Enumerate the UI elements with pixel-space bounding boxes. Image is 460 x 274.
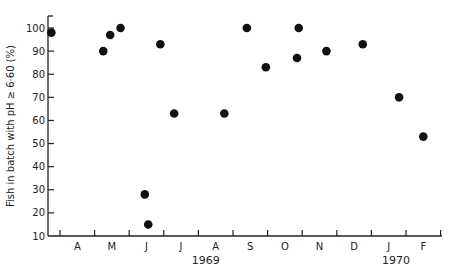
x-month-label: A xyxy=(212,241,219,252)
y-tick-label: 40 xyxy=(32,161,45,172)
y-tick-label: 10 xyxy=(32,231,45,242)
data-point xyxy=(293,54,302,63)
x-month-labels: AMJJASONDJF xyxy=(74,241,427,252)
data-point xyxy=(294,24,303,33)
y-tick-label: 30 xyxy=(32,184,45,195)
y-tick-label: 20 xyxy=(32,207,45,218)
data-point xyxy=(395,93,404,102)
x-month-label: J xyxy=(179,241,183,252)
x-month-label: N xyxy=(316,241,323,252)
data-point xyxy=(262,63,271,72)
y-tick-label: 100 xyxy=(26,23,45,34)
x-year-label: 1969 xyxy=(192,254,220,267)
data-point xyxy=(144,220,153,229)
x-month-label: F xyxy=(420,241,426,252)
scatter-chart: 102030405060708090100 AMJJASONDJF 196919… xyxy=(0,0,460,274)
y-ticks: 102030405060708090100 xyxy=(26,23,54,242)
y-tick-label: 50 xyxy=(32,138,45,149)
x-month-label: O xyxy=(281,241,289,252)
data-point xyxy=(243,24,252,33)
x-month-label: J xyxy=(144,241,148,252)
data-point xyxy=(358,40,367,49)
data-point xyxy=(156,40,165,49)
x-month-label: A xyxy=(74,241,81,252)
data-point xyxy=(47,28,56,37)
y-tick-label: 80 xyxy=(32,69,45,80)
y-tick-label: 70 xyxy=(32,92,45,103)
data-point xyxy=(220,109,229,118)
data-point xyxy=(116,24,125,33)
y-tick-label: 60 xyxy=(32,115,45,126)
x-year-label: 1970 xyxy=(382,254,410,267)
data-point xyxy=(140,190,149,199)
y-tick-label: 90 xyxy=(32,46,45,57)
data-points xyxy=(47,24,428,229)
x-month-label: D xyxy=(350,241,358,252)
x-month-label: J xyxy=(386,241,390,252)
x-month-label: S xyxy=(247,241,253,252)
data-point xyxy=(322,47,331,56)
data-point xyxy=(419,132,428,141)
x-ticks xyxy=(60,230,441,236)
x-year-labels: 19691970 xyxy=(192,254,410,267)
x-month-label: M xyxy=(108,241,117,252)
y-axis-label: Fish in batch with pH ≥ 6·60 (%) xyxy=(5,45,16,207)
axes xyxy=(48,16,442,236)
data-point xyxy=(106,31,115,40)
data-point xyxy=(99,47,108,56)
data-point xyxy=(170,109,179,118)
